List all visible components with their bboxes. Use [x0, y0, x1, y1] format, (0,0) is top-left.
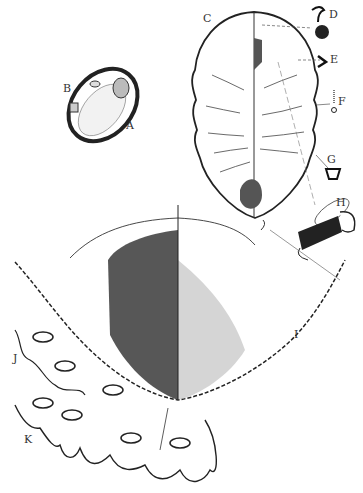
scale-insect-illustration: [0, 0, 363, 493]
label-k: K: [24, 433, 32, 446]
detail-f: [332, 90, 337, 113]
detail-k: [15, 398, 216, 482]
label-d: D: [329, 8, 338, 21]
specimen-c-body: [192, 12, 330, 230]
label-a: A: [126, 119, 134, 132]
detail-j: [15, 330, 123, 395]
label-h: H: [336, 196, 346, 209]
label-f: F: [338, 95, 346, 108]
label-j: J: [13, 352, 17, 365]
label-g: G: [327, 153, 336, 166]
detail-h: [298, 194, 355, 260]
label-c: C: [203, 12, 211, 25]
label-e: E: [330, 53, 338, 66]
label-b: B: [63, 82, 71, 95]
detail-e: [318, 56, 326, 67]
label-i: I: [294, 328, 298, 341]
detail-d: [312, 7, 329, 39]
specimen-ab: [54, 55, 151, 155]
detail-g: [326, 169, 340, 179]
